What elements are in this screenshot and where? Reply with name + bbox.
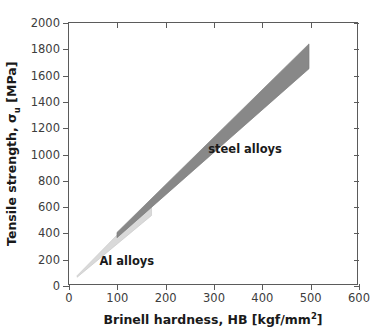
y-tick-label: 2000 <box>31 16 60 30</box>
y-tick-label: 600 <box>38 200 60 214</box>
y-tick-mark <box>63 181 69 182</box>
y-tick-mark-right <box>354 23 359 24</box>
y-tick-mark-right <box>354 102 359 103</box>
x-tick-mark <box>117 284 118 290</box>
x-tick-mark <box>214 284 215 290</box>
y-tick-mark <box>63 155 69 156</box>
x-axis-title-prefix: Brinell hardness, HB [kgf/mm <box>103 312 310 327</box>
y-axis-title: Tensile strength, σu [MPa] <box>2 22 24 285</box>
x-tick-mark-top <box>214 23 215 28</box>
x-axis-title-suffix: ] <box>317 312 323 327</box>
y-tick-label: 1400 <box>31 95 60 109</box>
y-tick-mark-right <box>354 155 359 156</box>
y-axis-title-prefix: Tensile strength, σ <box>4 113 19 246</box>
plot-area: steel alloys Al alloys <box>69 23 357 284</box>
steel-alloys-band <box>117 44 309 238</box>
y-tick-mark <box>63 23 69 24</box>
annotation-al-alloys: Al alloys <box>99 254 154 268</box>
y-tick-label: 1200 <box>31 121 60 135</box>
y-tick-mark-right <box>354 181 359 182</box>
y-tick-mark-right <box>354 76 359 77</box>
x-tick-label: 300 <box>203 291 225 305</box>
tensile-strength-vs-brinell-hardness-chart: Tensile strength, σu [MPa] steel alloys … <box>0 0 380 336</box>
y-tick-mark <box>63 233 69 234</box>
y-tick-label: 1000 <box>31 148 60 162</box>
y-tick-label: 400 <box>38 226 60 240</box>
x-tick-label: 0 <box>65 291 72 305</box>
y-tick-label: 200 <box>38 253 60 267</box>
x-tick-mark <box>359 284 360 290</box>
x-tick-mark-top <box>311 23 312 28</box>
y-tick-mark-right <box>354 49 359 50</box>
y-tick-mark-right <box>354 233 359 234</box>
x-tick-mark <box>262 284 263 290</box>
x-tick-mark <box>166 284 167 290</box>
y-tick-mark <box>63 128 69 129</box>
y-tick-mark <box>63 260 69 261</box>
x-tick-mark-top <box>117 23 118 28</box>
x-tick-mark <box>69 284 70 290</box>
x-tick-label: 100 <box>106 291 128 305</box>
y-tick-mark <box>63 207 69 208</box>
y-tick-mark <box>63 76 69 77</box>
x-tick-label: 200 <box>155 291 177 305</box>
y-tick-label: 800 <box>38 174 60 188</box>
x-tick-label: 400 <box>251 291 273 305</box>
y-axis-title-text: Tensile strength, σu [MPa] <box>4 61 22 245</box>
y-tick-mark <box>63 49 69 50</box>
y-axis-title-subscript: u <box>12 107 22 113</box>
x-tick-mark-top <box>262 23 263 28</box>
y-tick-label: 1600 <box>31 69 60 83</box>
x-tick-label: 500 <box>300 291 322 305</box>
plot-frame: steel alloys Al alloys 02004006008001000… <box>68 22 358 285</box>
y-tick-mark-right <box>354 128 359 129</box>
y-tick-label: 0 <box>53 279 60 293</box>
annotation-steel-alloys: steel alloys <box>208 142 282 156</box>
y-tick-mark <box>63 102 69 103</box>
y-tick-label: 1800 <box>31 42 60 56</box>
x-tick-mark <box>311 284 312 290</box>
y-tick-mark-right <box>354 260 359 261</box>
y-tick-mark-right <box>354 207 359 208</box>
x-tick-label: 600 <box>348 291 370 305</box>
x-axis-title: Brinell hardness, HB [kgf/mm2] <box>68 311 358 327</box>
x-tick-mark-top <box>166 23 167 28</box>
y-axis-title-suffix: [MPa] <box>4 61 19 106</box>
